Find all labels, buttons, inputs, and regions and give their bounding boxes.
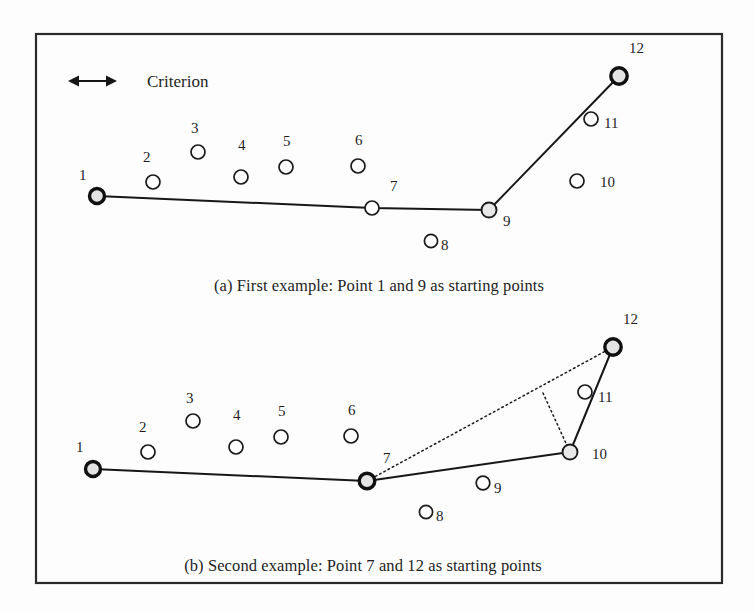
data-point-label-10: 10: [600, 174, 615, 190]
data-point-marker-4: [229, 440, 243, 454]
criterion-arrow-head-left-icon: [68, 76, 79, 87]
panel-a-marker-group: [90, 68, 628, 248]
data-point-marker-1: [90, 189, 105, 204]
data-point-marker-11: [578, 385, 592, 399]
criterion-legend: Criterion: [68, 72, 209, 91]
panel-b-marker-group: [86, 339, 622, 519]
figure-canvas: Criterion 123456789101112 (a) First exam…: [0, 0, 755, 612]
data-point-label-8: 8: [436, 508, 444, 524]
data-point-label-4: 4: [238, 137, 246, 153]
data-point-marker-9: [482, 203, 497, 218]
panel-b-label-group: 123456789101112: [76, 311, 638, 524]
data-point-marker-5: [274, 430, 288, 444]
panel-b: 123456789101112 (b) Second example: Poin…: [76, 311, 638, 575]
data-point-marker-8: [424, 234, 437, 247]
data-point-label-9: 9: [494, 480, 502, 496]
data-point-marker-8: [419, 505, 432, 518]
data-point-marker-12: [611, 68, 627, 84]
data-point-marker-3: [191, 145, 205, 159]
data-point-label-8: 8: [441, 237, 449, 253]
data-point-marker-2: [146, 175, 160, 189]
data-point-label-9: 9: [503, 213, 511, 229]
data-point-label-3: 3: [191, 120, 199, 136]
perpendicular-to-point-10: [543, 393, 570, 452]
data-point-marker-5: [279, 160, 293, 174]
data-point-label-5: 5: [283, 133, 291, 149]
data-point-label-11: 11: [598, 389, 612, 405]
chord-7-to-12: [367, 347, 613, 481]
data-point-label-3: 3: [186, 390, 194, 406]
figure-container: Criterion 123456789101112 (a) First exam…: [0, 0, 755, 612]
panel-b-dotted-group: [367, 347, 613, 481]
data-point-marker-10: [563, 445, 578, 460]
data-point-label-12: 12: [629, 40, 644, 56]
data-point-marker-10: [570, 174, 584, 188]
figure-frame-border: [36, 34, 722, 583]
data-point-label-10: 10: [592, 446, 607, 462]
data-point-marker-11: [584, 112, 598, 126]
data-point-label-2: 2: [143, 149, 151, 165]
data-point-label-11: 11: [604, 115, 618, 131]
data-point-marker-7: [365, 201, 379, 215]
data-point-marker-4: [234, 170, 248, 184]
panel-b-caption: (b) Second example: Point 7 and 12 as st…: [184, 556, 542, 575]
data-point-marker-1: [86, 462, 101, 477]
data-point-marker-6: [351, 159, 365, 173]
data-point-label-7: 7: [383, 450, 391, 466]
data-point-label-1: 1: [76, 439, 84, 455]
data-point-marker-9: [476, 476, 490, 490]
data-point-marker-2: [141, 445, 155, 459]
panel-a-caption: (a) First example: Point 1 and 9 as star…: [214, 276, 544, 295]
data-point-label-1: 1: [79, 167, 87, 183]
criterion-label: Criterion: [147, 72, 209, 91]
data-point-label-4: 4: [233, 407, 241, 423]
data-point-label-12: 12: [623, 311, 638, 327]
data-point-label-2: 2: [139, 419, 147, 435]
data-point-label-6: 6: [348, 402, 356, 418]
data-point-label-5: 5: [278, 403, 286, 419]
data-point-label-7: 7: [390, 178, 398, 194]
data-point-marker-3: [186, 414, 200, 428]
data-point-label-6: 6: [355, 132, 363, 148]
data-point-marker-6: [344, 429, 358, 443]
data-point-marker-12: [605, 339, 621, 355]
criterion-arrow-head-right-icon: [106, 76, 117, 87]
data-point-marker-7: [359, 473, 375, 489]
